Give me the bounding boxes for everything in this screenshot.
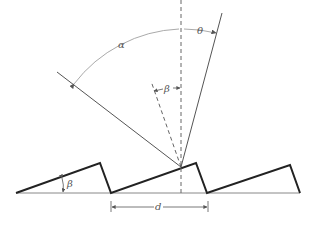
theta-label: θ: [197, 25, 203, 36]
beta-facet-label: β: [66, 178, 73, 189]
incident-ray: [57, 72, 181, 167]
d-label: d: [155, 201, 161, 212]
alpha-arc: [74, 29, 179, 84]
alpha-label: α: [118, 39, 125, 50]
grating-diagram: α θ β β d: [0, 0, 315, 225]
beta-normal-arrow-left: [154, 89, 163, 91]
diffracted-ray: [181, 13, 222, 167]
beta-normal-label: β: [163, 83, 170, 94]
beta-facet-arc: [62, 178, 63, 192]
grating-profile: [16, 163, 300, 193]
